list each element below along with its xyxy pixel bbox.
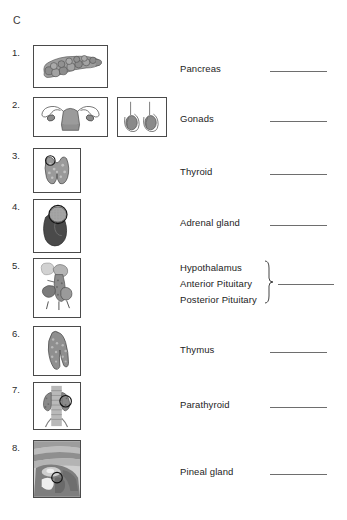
row-number: 4.	[12, 201, 20, 212]
figure-box-hypothalamus-pituitary	[33, 258, 81, 318]
hypothalamus-pituitary-illustration	[34, 259, 80, 317]
worksheet-page: C 1.	[0, 0, 347, 520]
row-label-hypothalamus: Hypothalamus	[180, 262, 242, 273]
worksheet-row: 7.	[0, 382, 347, 434]
worksheet-row: 3. Thyroid	[0, 148, 347, 198]
answer-line[interactable]	[278, 284, 334, 285]
brain-sagittal-pineal-illustration	[34, 441, 80, 497]
figure-box-pancreas	[33, 45, 108, 88]
worksheet-row: 1.	[0, 45, 347, 92]
thyroid-gland-illustration	[34, 149, 80, 192]
answer-line[interactable]	[270, 225, 327, 226]
row-label-adrenal-gland: Adrenal gland	[180, 217, 240, 228]
section-letter: C	[13, 14, 21, 26]
parathyroid-trachea-illustration	[34, 383, 80, 429]
row-label-anterior-pituitary: Anterior Pituitary	[180, 278, 252, 289]
answer-line[interactable]	[270, 407, 327, 408]
figure-box-pineal	[33, 440, 81, 498]
row-label-thymus: Thymus	[180, 344, 214, 355]
worksheet-row: 6. Thymus	[0, 326, 347, 380]
worksheet-row: 8. Pineal gland	[0, 440, 347, 502]
row-label-pancreas: Pancreas	[180, 63, 221, 74]
figure-box-testes	[117, 97, 167, 137]
answer-line[interactable]	[270, 71, 327, 72]
figure-box-thymus	[33, 326, 81, 376]
row-number: 5.	[12, 260, 20, 271]
row-number: 8.	[12, 442, 20, 453]
row-label-gonads: Gonads	[180, 113, 214, 124]
testes-illustration	[118, 98, 166, 136]
figure-box-adrenal	[33, 199, 81, 253]
grouping-brace-icon	[264, 260, 274, 304]
figure-box-uterus-ovaries	[33, 97, 108, 137]
row-number: 7.	[12, 384, 20, 395]
row-label-pineal-gland: Pineal gland	[180, 466, 234, 477]
row-label-thyroid: Thyroid	[180, 166, 212, 177]
kidney-adrenal-illustration	[34, 200, 80, 252]
worksheet-row: 5.	[0, 258, 347, 320]
uterus-ovaries-illustration	[34, 98, 107, 136]
row-number: 2.	[12, 99, 20, 110]
answer-line[interactable]	[270, 121, 327, 122]
row-label-posterior-pituitary: Posterior Pituitary	[180, 294, 257, 305]
thymus-illustration	[34, 327, 80, 375]
row-number: 6.	[12, 328, 20, 339]
answer-line[interactable]	[270, 474, 327, 475]
figure-box-thyroid	[33, 148, 81, 193]
figure-box-parathyroid	[33, 382, 81, 430]
row-number: 3.	[12, 150, 20, 161]
worksheet-row: 2.	[0, 97, 347, 144]
row-label-parathyroid: Parathyroid	[180, 399, 230, 410]
answer-line[interactable]	[270, 352, 327, 353]
worksheet-row: 4. Adrenal gland	[0, 199, 347, 257]
row-number: 1.	[12, 47, 20, 58]
answer-line[interactable]	[270, 174, 327, 175]
pancreas-illustration	[34, 46, 107, 87]
